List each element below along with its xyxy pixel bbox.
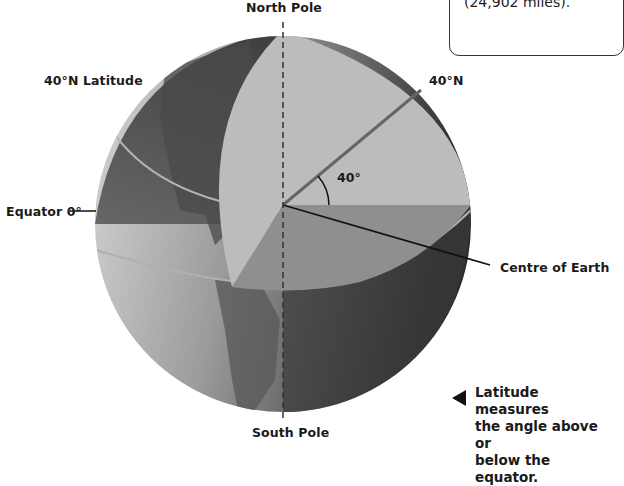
caption-line-3: below the equator.: [475, 452, 610, 486]
north-pole-label: North Pole: [246, 0, 322, 15]
caption-line-1: Latitude measures: [475, 384, 610, 418]
circumference-info-box: 40,075 kilometres (24,902 miles).: [449, 0, 624, 56]
south-pole-label: South Pole: [252, 425, 329, 440]
equator-label: Equator 0°: [6, 204, 82, 219]
caption-line-2: the angle above or: [475, 418, 610, 452]
caption: Latitude measures the angle above or bel…: [475, 384, 610, 486]
latitude-40n-label: 40°N Latitude: [44, 73, 143, 88]
angle-end-40n-label: 40°N: [429, 73, 464, 88]
info-line-2: (24,902 miles).: [464, 0, 623, 11]
angle-40-label: 40°: [337, 170, 361, 185]
caption-pointer-icon: [452, 390, 466, 406]
centre-of-earth-label: Centre of Earth: [500, 260, 609, 275]
